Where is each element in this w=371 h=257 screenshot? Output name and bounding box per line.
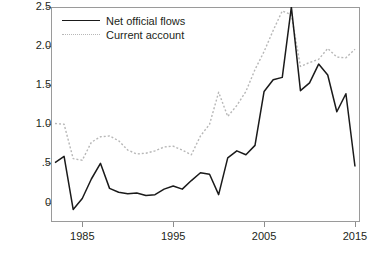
x-tick-label: 1995 [153, 230, 193, 242]
x-tick-mark [355, 222, 356, 227]
legend-swatch-dotted-icon [62, 30, 100, 40]
x-tick-label: 1985 [62, 230, 102, 242]
legend-label: Current account [106, 29, 184, 41]
legend-swatch-solid-icon [62, 16, 100, 26]
legend-item-current-account: Current account [62, 28, 185, 42]
y-tick-label: 0 [7, 197, 51, 208]
y-tick-label: 2.0 [7, 40, 51, 51]
y-axis: 0.51.01.52.02.5 [0, 0, 51, 257]
x-tick-mark [173, 222, 174, 227]
x-tick-mark [264, 222, 265, 227]
legend-item-net-official-flows: Net official flows [62, 14, 185, 28]
x-tick-label: 2015 [335, 230, 371, 242]
y-tick-label: 2.5 [7, 1, 51, 12]
y-tick-label: .5 [7, 157, 51, 168]
x-tick-label: 2005 [244, 230, 284, 242]
x-axis: 1985199520052015 [0, 222, 371, 257]
y-tick-label: 1.0 [7, 118, 51, 129]
y-tick-label: 1.5 [7, 79, 51, 90]
x-tick-mark [82, 222, 83, 227]
legend-label: Net official flows [106, 15, 185, 27]
chart-figure: 0.51.01.52.02.5 1985199520052015 Net off… [0, 0, 371, 257]
chart-legend: Net official flows Current account [62, 14, 185, 42]
